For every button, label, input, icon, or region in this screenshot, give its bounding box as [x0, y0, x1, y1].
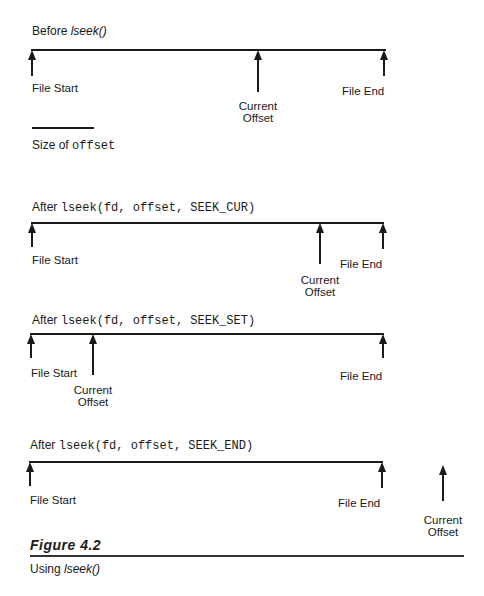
current-label: Current	[413, 514, 473, 526]
file-end-label: File End	[340, 258, 382, 270]
file-bar	[31, 49, 386, 51]
current-offset-label: Current Offset	[228, 100, 288, 124]
file-end-label: File End	[340, 370, 382, 382]
title-prefix: Before	[32, 24, 71, 38]
caption-prefix: Using	[30, 562, 64, 576]
file-start-label: File Start	[31, 367, 77, 379]
file-end-label: File End	[338, 497, 380, 509]
file-bar	[29, 461, 383, 463]
file-start-label: File Start	[30, 494, 76, 506]
panel-seek-end-title: After lseek(fd, offset, SEEK_END)	[30, 438, 253, 453]
legend-prefix: Size of	[32, 138, 72, 152]
panel-seek-set-title: After lseek(fd, offset, SEEK_SET)	[32, 313, 255, 328]
panel-before-title: Before lseek()	[32, 24, 107, 38]
current-label: Current	[290, 274, 350, 286]
offset-size-line	[32, 127, 94, 129]
offset-label: Offset	[63, 396, 123, 408]
title-prefix: After	[30, 438, 59, 452]
caption-rule	[30, 555, 464, 557]
current-label: Current	[228, 100, 288, 112]
current-offset-label: Current Offset	[63, 384, 123, 408]
offset-label: Offset	[228, 112, 288, 124]
current-offset-label: Current Offset	[413, 514, 473, 538]
title-prefix: After	[32, 313, 61, 327]
panel-seek-cur-title: After lseek(fd, offset, SEEK_CUR)	[32, 200, 255, 215]
current-label: Current	[63, 384, 123, 396]
file-bar	[31, 222, 384, 224]
file-start-label: File Start	[32, 254, 78, 266]
figure-caption: Using lseek()	[30, 562, 100, 576]
file-end-label: File End	[342, 85, 384, 97]
offset-label: Offset	[290, 286, 350, 298]
legend-code: offset	[72, 139, 115, 153]
file-bar	[30, 333, 384, 335]
offset-label: Offset	[413, 526, 473, 538]
file-start-label: File Start	[32, 82, 78, 94]
title-prefix: After	[32, 200, 61, 214]
title-call: lseek(fd, offset, SEEK_END)	[59, 439, 253, 453]
offset-size-legend: Size of offset	[32, 138, 115, 153]
title-call: lseek()	[71, 24, 107, 38]
caption-call: lseek()	[64, 562, 100, 576]
figure-number: Figure 4.2	[30, 537, 101, 553]
title-call: lseek(fd, offset, SEEK_CUR)	[61, 201, 255, 215]
current-offset-label: Current Offset	[290, 274, 350, 298]
title-call: lseek(fd, offset, SEEK_SET)	[61, 314, 255, 328]
